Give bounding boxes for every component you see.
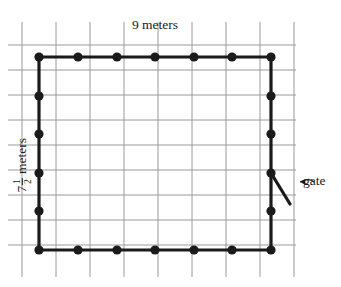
fence-post — [150, 245, 159, 254]
fence-post — [189, 52, 198, 61]
fence-post — [266, 129, 275, 138]
fraction-denominator: 2 — [23, 178, 33, 185]
fence-rectangle — [39, 57, 271, 250]
fence-post — [189, 245, 198, 254]
fence-posts — [34, 52, 275, 254]
fence-post — [34, 245, 43, 254]
fence-post — [227, 245, 236, 254]
fence-post — [266, 52, 275, 61]
fence-post — [112, 52, 121, 61]
gate-label: gate — [303, 174, 326, 188]
figure-container: 9 meters 712 meters gate — [0, 0, 341, 287]
height-dimension-label: 712 meters — [12, 110, 32, 220]
fence-post — [34, 52, 43, 61]
fence-post — [266, 245, 275, 254]
height-whole-number: 7 — [14, 186, 29, 193]
fence-post — [73, 245, 82, 254]
fence-post — [266, 91, 275, 100]
height-unit: meters — [14, 138, 29, 174]
fence-post — [34, 206, 43, 215]
fence-post — [266, 168, 275, 177]
fence-post — [150, 52, 159, 61]
fence-post — [112, 245, 121, 254]
fenced-yard-diagram — [0, 0, 341, 287]
fence-post — [266, 206, 275, 215]
gate-line — [271, 173, 290, 204]
fence-post — [73, 52, 82, 61]
fence-post — [227, 52, 236, 61]
grid-horizontal-lines — [8, 45, 296, 245]
fence-post — [34, 168, 43, 177]
fence-post — [34, 91, 43, 100]
fence-post — [34, 129, 43, 138]
width-dimension-label: 9 meters — [0, 18, 310, 32]
height-fraction: 12 — [12, 178, 32, 185]
